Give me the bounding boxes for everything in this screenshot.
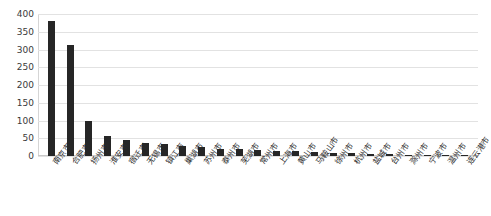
y-axis-tick-label: 350 xyxy=(0,28,34,37)
bar-slot xyxy=(305,14,324,156)
bar-slot xyxy=(80,14,99,156)
bar-slot xyxy=(136,14,155,156)
y-axis-tick-label: 0 xyxy=(0,152,34,161)
x-tick-slot: 盐城市 xyxy=(361,158,380,216)
x-tick-slot: 苏州市 xyxy=(192,158,211,216)
x-tick-slot: 无锡市 xyxy=(136,158,155,216)
y-axis-tick-label: 400 xyxy=(0,10,34,19)
bar-series xyxy=(38,14,478,156)
x-tick-slot: 温州市 xyxy=(436,158,455,216)
bar-slot xyxy=(436,14,455,156)
x-tick-slot: 泰州市 xyxy=(211,158,230,216)
y-axis-tick-label: 50 xyxy=(0,134,34,143)
x-tick-slot: 连云港市 xyxy=(455,158,474,216)
bar-slot xyxy=(155,14,174,156)
y-axis-tick-labels: 400350300250200150100500 xyxy=(0,0,34,216)
x-tick-slot: 上海市 xyxy=(267,158,286,216)
x-tick-slot: 巢湖市 xyxy=(173,158,192,216)
bar-slot xyxy=(399,14,418,156)
bar-slot xyxy=(343,14,362,156)
bar[interactable] xyxy=(67,45,74,156)
y-axis-tick-label: 300 xyxy=(0,46,34,55)
bar-slot xyxy=(173,14,192,156)
x-tick-slot: 黄山市 xyxy=(286,158,305,216)
y-axis-tick-label: 200 xyxy=(0,81,34,90)
x-axis-tick-labels: 南京市合肥市扬州市淮安市宿迁市无锡市镇江市巢湖市苏州市泰州市芜湖市常州市上海市黄… xyxy=(38,158,478,216)
bar-slot xyxy=(98,14,117,156)
y-axis-tick-label: 150 xyxy=(0,99,34,108)
plot-area xyxy=(38,14,478,156)
x-tick-slot: 杭州市 xyxy=(343,158,362,216)
x-tick-slot: 扬州市 xyxy=(80,158,99,216)
bar-slot xyxy=(230,14,249,156)
y-axis-tick-label: 100 xyxy=(0,117,34,126)
x-tick-slot: 镇江市 xyxy=(155,158,174,216)
y-axis-tick-label: 250 xyxy=(0,63,34,72)
bar-slot xyxy=(286,14,305,156)
x-tick-slot: 南京市 xyxy=(42,158,61,216)
x-tick-slot: 芜湖市 xyxy=(230,158,249,216)
bar-slot xyxy=(42,14,61,156)
x-tick-slot: 徐州市 xyxy=(324,158,343,216)
x-tick-slot: 合肥市 xyxy=(61,158,80,216)
bar-slot xyxy=(267,14,286,156)
bar-slot xyxy=(211,14,230,156)
bar-slot xyxy=(380,14,399,156)
x-tick-slot: 滁州市 xyxy=(399,158,418,216)
bar[interactable] xyxy=(48,21,55,156)
x-tick-slot: 宿迁市 xyxy=(117,158,136,216)
x-tick-slot: 马鞍山市 xyxy=(305,158,324,216)
bar-slot xyxy=(249,14,268,156)
bar-slot xyxy=(192,14,211,156)
bar-slot xyxy=(455,14,474,156)
bar-slot xyxy=(361,14,380,156)
bar-slot xyxy=(117,14,136,156)
x-tick-slot: 台州市 xyxy=(380,158,399,216)
x-tick-slot: 常州市 xyxy=(249,158,268,216)
x-tick-slot: 淮安市 xyxy=(98,158,117,216)
bar-slot xyxy=(418,14,437,156)
bar-slot xyxy=(61,14,80,156)
x-tick-slot: 宁波市 xyxy=(418,158,437,216)
